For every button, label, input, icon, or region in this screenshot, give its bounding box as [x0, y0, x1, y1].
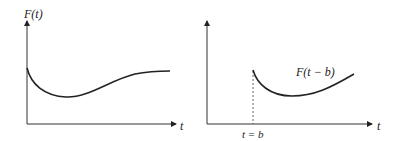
function-shift-diagram — [0, 0, 395, 141]
left-y-axis-label: F(t) — [24, 8, 43, 20]
left-plot — [27, 21, 176, 124]
left-curve-F — [27, 68, 170, 97]
right-plot — [207, 21, 372, 124]
right-curve-label: F(t − b) — [296, 66, 335, 78]
shift-marker-label: t = b — [242, 128, 263, 140]
right-x-axis-label: t — [377, 120, 380, 132]
left-x-axis-label: t — [180, 120, 183, 132]
